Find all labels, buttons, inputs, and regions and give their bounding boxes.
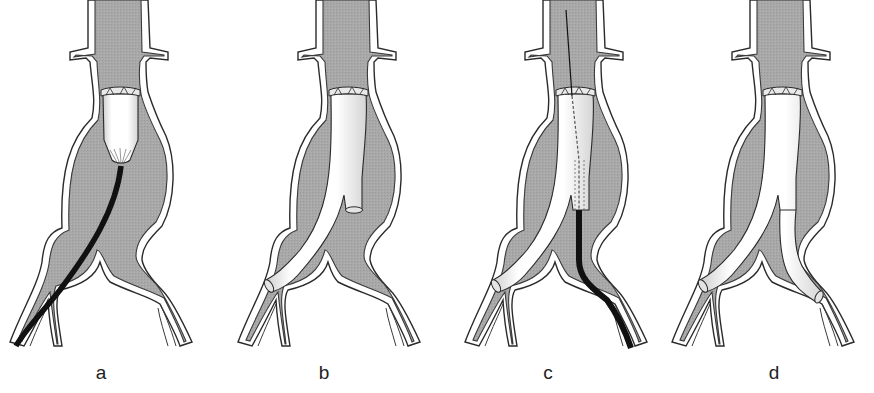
panel-b [238, 0, 420, 346]
panel-label-a: a [86, 362, 116, 384]
panel-a [10, 0, 192, 346]
evar-figure [0, 0, 874, 393]
panel-label-c: c [533, 362, 563, 384]
panel-label-b: b [309, 362, 339, 384]
panel-d [672, 0, 854, 346]
panel-c [465, 0, 647, 348]
panel-label-d: d [759, 362, 789, 384]
